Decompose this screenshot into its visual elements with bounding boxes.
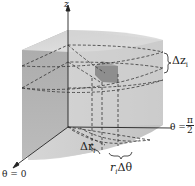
delta-r-text: Δr [80, 140, 93, 153]
r-dtheta-label: riΔθ [110, 162, 132, 176]
delta-theta-text: Δθ [118, 161, 133, 174]
cylindrical-wedge-diagram [0, 0, 195, 186]
pi-over-two: π 2 [186, 116, 194, 135]
z-axis-label: z [64, 0, 69, 9]
delta-z-subscript: i [186, 61, 188, 69]
delta-z-text: Δz [172, 54, 186, 67]
delta-z-label: Δzi [172, 55, 188, 69]
delta-z-brace [164, 53, 171, 73]
theta-zero-label: θ = 0 [2, 170, 26, 179]
pi-denominator: 2 [186, 126, 194, 135]
delta-r-subscript: i [93, 147, 95, 155]
theta-half-pi-text: θ = [170, 122, 186, 132]
delta-r-label: Δri [80, 141, 95, 155]
theta-half-pi-label: θ = [170, 123, 186, 132]
r-dtheta-brace [109, 152, 132, 159]
